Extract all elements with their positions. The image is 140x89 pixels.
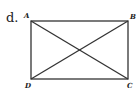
rectangle-with-diagonals (0, 0, 140, 89)
rectangle-diagram: d. A B C D (0, 0, 140, 89)
vertex-label-a: A (24, 12, 29, 19)
vertex-label-c: C (127, 82, 133, 89)
vertex-label-b: B (130, 13, 136, 20)
vertex-label-d: D (25, 82, 31, 89)
